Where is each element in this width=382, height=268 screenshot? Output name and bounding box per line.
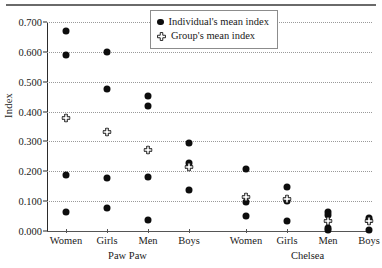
gridline (47, 52, 372, 54)
chart-figure: Index 0.0000.1000.2000.3000.4000.5000.60… (0, 0, 382, 268)
x-tick-mark (189, 229, 190, 233)
data-point-individual (145, 174, 152, 181)
x-tick-mark (107, 229, 108, 233)
data-point-individual (366, 226, 373, 233)
y-tick-mark (43, 171, 47, 172)
x-tick-label: Boys (358, 235, 380, 246)
data-point-group-mean (62, 114, 71, 123)
data-point-individual (104, 85, 111, 92)
data-point-group-mean (103, 128, 112, 137)
data-point-individual (63, 171, 70, 178)
y-tick-label: 0.200 (18, 166, 42, 177)
data-point-group-mean (324, 217, 333, 226)
y-tick-label: 0.000 (18, 226, 42, 237)
x-tick-label: Men (138, 235, 157, 246)
data-point-individual (63, 51, 70, 58)
gridline (47, 82, 372, 84)
filled-circle-icon (157, 19, 164, 26)
x-tick-mark (66, 229, 67, 233)
y-tick-mark (43, 141, 47, 142)
gridline (47, 201, 372, 203)
data-point-group-mean (365, 216, 374, 225)
data-point-individual (284, 183, 291, 190)
data-point-individual (104, 204, 111, 211)
y-tick-label: 0.400 (18, 106, 42, 117)
data-point-individual (63, 27, 70, 34)
data-point-individual (186, 187, 193, 194)
x-tick-mark (246, 229, 247, 233)
x-tick-label: Boys (178, 235, 200, 246)
y-tick-label: 0.600 (18, 46, 42, 57)
data-point-group-mean (144, 146, 153, 155)
y-tick-mark (43, 111, 47, 112)
legend-label-group: Group's mean index (171, 29, 255, 43)
data-point-group-mean (242, 193, 251, 202)
data-point-individual (104, 48, 111, 55)
open-cross-icon (157, 32, 166, 41)
gridline (47, 171, 372, 173)
x-axis-group-label: Paw Paw (108, 250, 147, 261)
x-axis-line (47, 231, 372, 232)
y-tick-label: 0.300 (18, 136, 42, 147)
y-tick-label: 0.100 (18, 196, 42, 207)
data-point-individual (63, 208, 70, 215)
x-tick-mark (148, 229, 149, 233)
chart-legend: Individual's mean index Group's mean ind… (150, 10, 278, 49)
x-axis-group-label: Chelsea (291, 250, 324, 261)
data-point-individual (145, 216, 152, 223)
y-tick-mark (43, 231, 47, 232)
data-point-individual (284, 218, 291, 225)
data-point-group-mean (283, 195, 292, 204)
plot-area: 0.0000.1000.2000.3000.4000.5000.6000.700… (47, 22, 372, 232)
gridline (47, 112, 372, 114)
x-tick-label: Women (230, 235, 262, 246)
x-tick-label: Girls (97, 235, 118, 246)
legend-item-group: Group's mean index (157, 29, 269, 43)
data-point-individual (243, 166, 250, 173)
y-tick-label: 0.700 (18, 17, 42, 28)
data-point-individual (145, 93, 152, 100)
y-tick-label: 0.500 (18, 76, 42, 87)
y-tick-mark (43, 81, 47, 82)
data-point-individual (145, 102, 152, 109)
gridline (47, 141, 372, 143)
data-point-individual (186, 139, 193, 146)
data-point-group-mean (185, 163, 194, 172)
y-tick-mark (43, 201, 47, 202)
y-tick-mark (43, 51, 47, 52)
x-tick-label: Girls (277, 235, 298, 246)
x-tick-label: Men (318, 235, 337, 246)
x-tick-mark (287, 229, 288, 233)
data-point-individual (243, 213, 250, 220)
y-axis-title: Index (3, 76, 14, 136)
data-point-individual (325, 226, 332, 233)
data-point-individual (104, 174, 111, 181)
y-tick-mark (43, 22, 47, 23)
legend-label-individual: Individual's mean index (169, 15, 269, 29)
legend-item-individual: Individual's mean index (157, 15, 269, 29)
x-tick-label: Women (50, 235, 82, 246)
page-top-rule (6, 4, 376, 6)
